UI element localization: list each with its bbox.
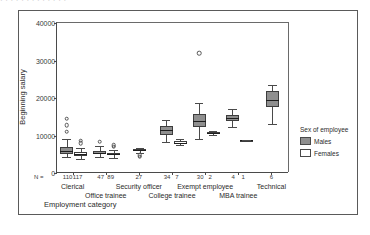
n-row-label: N = bbox=[34, 174, 44, 180]
y-tick-mark bbox=[54, 98, 57, 99]
outlier-point bbox=[97, 139, 102, 144]
whisker-cap bbox=[268, 124, 277, 125]
median-line bbox=[160, 130, 173, 131]
y-tick-mark bbox=[54, 61, 57, 62]
whisker-cap bbox=[162, 120, 171, 121]
outlier-point bbox=[78, 138, 83, 143]
x-tick-mark bbox=[205, 172, 206, 175]
n-count: 2 bbox=[208, 174, 211, 180]
plot-area: 010000200003000040000 bbox=[56, 22, 288, 172]
whisker-cap bbox=[76, 148, 85, 149]
y-tick-mark bbox=[54, 23, 57, 24]
whisker-cap bbox=[209, 131, 218, 132]
x-category-label: MBA trainee bbox=[219, 192, 257, 199]
whisker-cap bbox=[268, 85, 277, 86]
x-category-label: Clerical bbox=[61, 183, 84, 190]
whisker bbox=[272, 107, 273, 124]
whisker-cap bbox=[95, 157, 104, 158]
legend-item-males: Males bbox=[300, 137, 354, 145]
whisker bbox=[199, 127, 200, 138]
chart-screenshot: · · · · · · · · · · · · · 01000020000300… bbox=[0, 0, 370, 235]
whisker-cap bbox=[195, 103, 204, 104]
y-tick-mark bbox=[54, 173, 57, 174]
n-count: 47 bbox=[97, 174, 104, 180]
y-tick-mark bbox=[54, 136, 57, 137]
n-count: 34 bbox=[164, 174, 171, 180]
whisker-cap bbox=[176, 145, 185, 146]
whisker bbox=[67, 139, 68, 147]
plot-right-border bbox=[288, 22, 289, 172]
x-category-label: College trainee bbox=[148, 192, 195, 199]
y-tick-label: 30000 bbox=[36, 57, 55, 64]
y-tick-label: 20000 bbox=[36, 95, 55, 102]
whisker-cap bbox=[162, 142, 171, 143]
median-line bbox=[60, 151, 73, 152]
median-line bbox=[266, 100, 279, 101]
clipped-header-text: · · · · · · · · · · · · · bbox=[0, 0, 370, 5]
whisker-cap bbox=[62, 139, 71, 140]
n-count: 110 bbox=[63, 174, 73, 180]
x-category-label: Security officer bbox=[116, 183, 162, 190]
outlier-point bbox=[138, 153, 143, 158]
whisker-cap bbox=[95, 146, 104, 147]
n-count: 89 bbox=[107, 174, 114, 180]
y-tick-label: 40000 bbox=[36, 20, 55, 27]
whisker bbox=[166, 135, 167, 142]
whisker-cap bbox=[228, 109, 237, 110]
y-axis-title: Beginning salary bbox=[18, 69, 27, 124]
legend-label-males: Males bbox=[314, 138, 331, 145]
whisker bbox=[199, 103, 200, 114]
n-count: 7 bbox=[175, 174, 178, 180]
x-category-label: Technical bbox=[257, 183, 286, 190]
whisker-cap bbox=[195, 139, 204, 140]
whisker-cap bbox=[242, 140, 251, 141]
legend: Sex of employee Males Females bbox=[300, 126, 354, 161]
whisker-cap bbox=[136, 148, 145, 149]
n-count: 1 bbox=[242, 174, 245, 180]
outlier-point bbox=[64, 116, 69, 121]
n-count: 117 bbox=[73, 174, 83, 180]
legend-swatch-males bbox=[300, 137, 311, 145]
n-count: 4 bbox=[232, 174, 235, 180]
whisker-cap bbox=[109, 150, 118, 151]
legend-item-females: Females bbox=[300, 149, 354, 157]
x-category-label: Office trainee bbox=[85, 192, 127, 199]
median-line bbox=[193, 121, 206, 122]
y-tick-label: 10000 bbox=[36, 132, 55, 139]
whisker-cap bbox=[76, 159, 85, 160]
n-count: 30 bbox=[197, 174, 204, 180]
outlier-point bbox=[64, 129, 69, 134]
whisker-cap bbox=[209, 135, 218, 136]
x-tick-mark bbox=[172, 172, 173, 175]
x-axis-title: Employment category bbox=[44, 200, 117, 209]
x-tick-mark bbox=[238, 172, 239, 175]
whisker-cap bbox=[62, 157, 71, 158]
whisker-cap bbox=[176, 139, 185, 140]
whisker-cap bbox=[228, 127, 237, 128]
legend-swatch-females bbox=[300, 149, 311, 157]
legend-title: Sex of employee bbox=[300, 126, 354, 133]
n-count: 27 bbox=[136, 174, 143, 180]
outlier-point bbox=[197, 51, 202, 56]
outlier-point bbox=[64, 123, 69, 128]
legend-label-females: Females bbox=[314, 150, 339, 157]
whisker-cap bbox=[109, 158, 118, 159]
outlier-point bbox=[111, 143, 116, 148]
x-category-label: Exempt employee bbox=[177, 183, 233, 190]
median-line bbox=[226, 118, 239, 119]
n-count: 6 bbox=[270, 174, 273, 180]
